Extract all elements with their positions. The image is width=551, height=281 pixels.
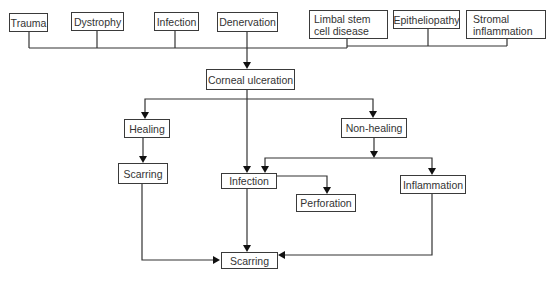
node-label: Denervation [219,16,276,28]
node-infection: Infection [221,173,277,189]
node-label: Perforation [300,197,351,209]
corneal-ulceration-flowchart: Trauma Dystrophy Infection Denervation L… [0,0,551,281]
node-limbal-stem-cell-disease: Limbal stem cell disease [309,10,388,39]
node-scarring-healing: Scarring [118,163,168,184]
node-stromal-inflammation: Stromal inflammation [466,10,546,39]
node-trauma: Trauma [9,13,48,32]
node-label: Corneal ulceration [208,74,293,86]
node-label: Stromal inflammation [473,13,533,37]
node-healing: Healing [124,119,170,138]
node-label: Scarring [123,168,162,180]
node-label: Non-healing [346,122,403,134]
node-label: Dystrophy [74,16,121,28]
node-label: Inflammation [403,179,463,191]
node-non-healing: Non-healing [341,118,407,138]
node-label: Healing [129,123,165,135]
node-label: Limbal stem cell disease [314,13,371,37]
node-label: Infection [229,175,269,187]
node-infection-cause: Infection [154,12,199,31]
node-label: Trauma [11,17,47,29]
node-epitheliopathy: Epitheliopathy [393,10,460,29]
node-perforation: Perforation [296,194,356,212]
node-dystrophy: Dystrophy [71,12,124,31]
node-inflammation: Inflammation [400,175,466,194]
node-label: Scarring [230,255,269,267]
connector-lines [0,0,551,281]
node-label: Infection [157,16,197,28]
node-denervation: Denervation [217,12,278,32]
node-scarring-final: Scarring [221,252,278,269]
node-corneal-ulceration: Corneal ulceration [206,69,295,90]
node-label: Epitheliopathy [394,14,460,26]
